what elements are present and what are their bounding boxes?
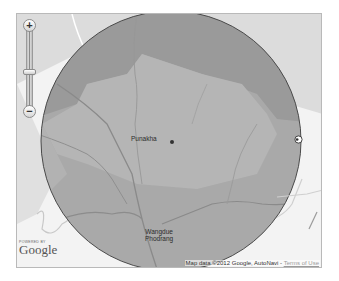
zoom-in-button[interactable]: +	[23, 19, 36, 32]
zoom-control[interactable]: + −	[23, 19, 37, 119]
map-canvas[interactable]: + − Punakha Wangdue Phodrang POWERED BY …	[16, 13, 322, 268]
drag-handle-icon[interactable]	[294, 135, 303, 144]
map-attribution: Map data ©2012 Google, AutoNavi - Terms …	[185, 260, 320, 266]
terms-of-use-link[interactable]: Terms of Use	[284, 260, 319, 266]
plus-icon: +	[26, 20, 32, 31]
zoom-out-button[interactable]: −	[23, 105, 36, 118]
minus-icon: −	[26, 106, 32, 117]
place-label-punakha: Punakha	[131, 135, 157, 142]
place-marker-dot[interactable]	[170, 140, 174, 144]
attribution-text: Map data ©2012 Google, AutoNavi	[186, 260, 279, 266]
zoom-slider-thumb[interactable]	[23, 69, 36, 75]
google-branding[interactable]: POWERED BY Google	[19, 240, 57, 256]
place-label-wangdue-phodrang: Wangdue Phodrang	[145, 228, 173, 242]
google-logo: Google	[19, 244, 57, 256]
